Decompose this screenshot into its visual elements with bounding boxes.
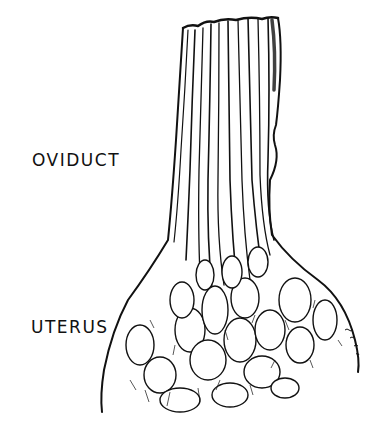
uterus-label: UTERUS [31,319,109,336]
anatomical-illustration [0,0,392,424]
oviduct-label: OVIDUCT [32,152,120,169]
oviduct-uterus-drawing [0,0,392,424]
